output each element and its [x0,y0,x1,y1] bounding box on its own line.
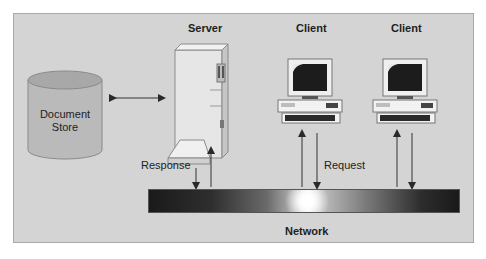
network-bar [148,189,460,213]
response-label: Response [141,159,191,171]
client-label-2: Client [391,22,422,34]
network-label: Network [285,225,328,237]
client-computer-icon [373,59,437,123]
server-label: Server [188,22,222,34]
document-store-label-line1: Document [38,108,92,121]
server-tower-icon [168,44,228,164]
client-computer-icon [278,59,342,123]
client-label-1: Client [296,22,327,34]
document-store-label: Document Store [38,108,92,134]
request-label: Request [324,159,365,171]
document-store-label-line2: Store [38,121,92,134]
